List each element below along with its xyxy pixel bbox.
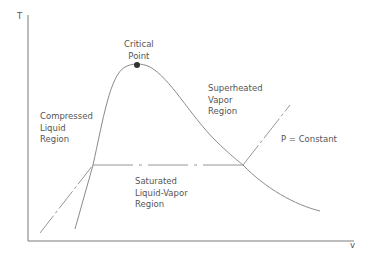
critical-point-label-line: Point <box>124 51 154 63</box>
constant-pressure-line-left <box>40 165 93 233</box>
superheated-label-line: Superheated <box>208 83 263 95</box>
critical-point-label: Critical Point <box>124 39 154 62</box>
constant-pressure-label: P = Constant <box>281 134 337 146</box>
saturated-label-line: Region <box>135 199 188 211</box>
saturation-dome <box>75 64 320 229</box>
saturated-label-line: Saturated <box>135 176 188 188</box>
compressed-label-line: Liquid <box>40 123 93 135</box>
superheated-label-line: Vapor <box>208 95 263 107</box>
compressed-region-label: Compressed Liquid Region <box>40 111 93 146</box>
superheated-label-line: Region <box>208 106 263 118</box>
saturated-region-label: Saturated Liquid-Vapor Region <box>135 176 188 211</box>
critical-point-label-line: Critical <box>124 39 154 51</box>
compressed-label-line: Compressed <box>40 111 93 123</box>
y-axis-label: T <box>17 11 22 23</box>
x-axis-label: v <box>350 240 355 252</box>
saturated-label-line: Liquid-Vapor <box>135 188 188 200</box>
critical-point-marker <box>134 62 140 68</box>
superheated-region-label: Superheated Vapor Region <box>208 83 263 118</box>
compressed-label-line: Region <box>40 134 93 146</box>
